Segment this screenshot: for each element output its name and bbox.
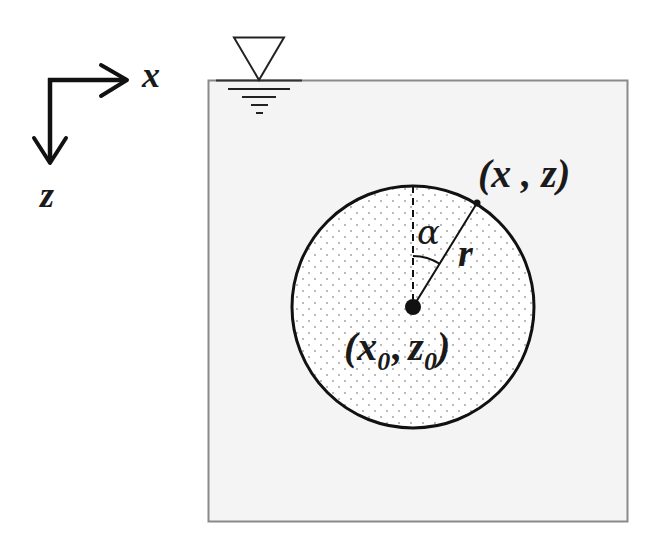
- cylinder-diagram: x z α r (x , z) (x0,z0): [0, 0, 657, 542]
- point-label: (x , z): [478, 151, 570, 196]
- coordinate-axes: x z: [34, 55, 160, 215]
- surface-point: [474, 200, 481, 207]
- x-axis-label: x: [141, 55, 160, 95]
- z-axis-label: z: [38, 175, 54, 215]
- radius-label: r: [458, 232, 474, 274]
- angle-label: α: [417, 212, 440, 252]
- center-point: [405, 299, 421, 315]
